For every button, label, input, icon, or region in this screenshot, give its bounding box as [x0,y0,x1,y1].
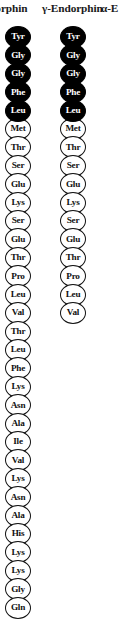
residue-chain-gamma-endorphin: TyrGlyGlyPheLeuMetThrSerGluLysSerGluThrP… [53,26,93,321]
residue-label: Phe [11,87,25,96]
residue-label: Ser [67,216,80,225]
residue-label: Ser [12,216,25,225]
residue-label: Asn [11,492,26,501]
residue-label: Gly [11,584,25,593]
residue-label: Thr [11,253,26,262]
residue-label: Met [65,124,80,133]
residue-node: Val [60,302,86,324]
residue-label: Lys [11,474,24,483]
column-headers: ndorphin γ-Endorphin α-E [0,0,123,22]
residue-label: Phe [66,87,80,96]
residue-label: Glu [66,179,80,188]
column-header-beta-endorphin: ndorphin [0,2,27,14]
residue-label: Thr [11,143,26,152]
residue-label: Val [12,308,24,317]
residue-label: Gly [66,50,80,59]
residue-label: Glu [11,179,25,188]
column-header-gamma-endorphin: γ-Endorphin [42,2,103,14]
residue-label: Ile [13,437,23,446]
residue-label: Gly [66,69,80,78]
residue-label: Leu [11,106,26,115]
residue-label: Met [10,124,25,133]
residue-label: Pro [11,271,25,280]
residue-label: Ala [11,419,24,428]
column-header-alpha-endorphin: α-E [101,2,118,14]
residue-label: Ala [11,511,24,520]
residue-label: Gly [11,69,25,78]
residue-label: Pro [66,271,80,280]
residue-label: Lys [11,198,24,207]
residue-node: Gln [5,597,31,619]
residue-label: Val [67,308,79,317]
residue-label: Ser [67,161,80,170]
residue-label: Thr [66,253,81,262]
residue-label: Leu [66,290,81,299]
residue-label: Asn [11,400,26,409]
residue-node: Leu [5,100,31,122]
residue-label: Lys [11,566,24,575]
residue-label: Gln [11,603,25,612]
residue-label: Thr [66,143,81,152]
residue-label: Tyr [66,32,80,41]
residue-label: Lys [11,382,24,391]
residue-label: Ser [12,161,25,170]
residue-label: Lys [66,198,79,207]
residue-chain-beta-endorphin: TyrGlyGlyPheLeuMetThrSerGluLysSerGluThrP… [0,26,38,615]
residue-label: Leu [11,290,26,299]
residue-label: Glu [11,235,25,244]
residue-label: Lys [11,547,24,556]
residue-label: Val [12,455,24,464]
residue-label: His [12,529,25,538]
residue-label: Thr [11,327,26,336]
residue-label: Leu [11,345,26,354]
residue-label: Gly [11,50,25,59]
residue-node: Leu [60,100,86,122]
residue-label: Glu [66,235,80,244]
residue-label: Phe [11,363,25,372]
residue-label: Leu [66,106,81,115]
residue-label: Tyr [11,32,25,41]
